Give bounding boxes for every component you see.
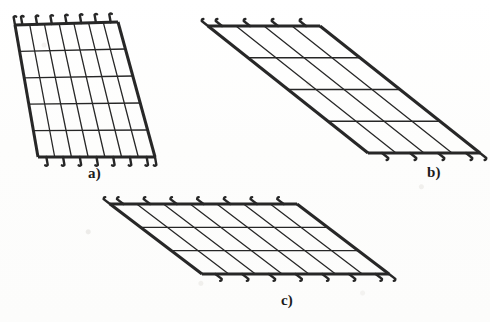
mesh-hook-bottom [145, 157, 148, 166]
mesh-hook-top [50, 15, 53, 24]
mesh-hook-top [36, 16, 39, 25]
mesh-wire-vertical [89, 23, 122, 157]
mesh-wire-vertical [163, 204, 255, 274]
mesh-hook-bottom [45, 157, 48, 166]
mesh-wire-vertical [190, 204, 282, 274]
figure-label-a: a) [88, 166, 101, 181]
mesh-hook-bottom [62, 157, 65, 166]
mesh-edge-left [110, 204, 202, 274]
mesh-edge-right [118, 22, 155, 157]
mesh-hook-bottom-corner [154, 157, 157, 166]
mesh-wire-vertical [137, 204, 229, 274]
mesh-wire-horizontal [24, 76, 133, 78]
mesh-hook-bottom-corner [389, 274, 395, 281]
mesh-wire-vertical [44, 24, 71, 157]
figure-a-mesh-panel [14, 13, 157, 165]
mesh-wire-horizontal [33, 130, 147, 131]
mesh-edge-left [15, 25, 38, 157]
figure-sheet: a) b) c) [0, 0, 490, 322]
mesh-wire-vertical [270, 204, 362, 274]
mesh-panels-drawing [0, 0, 490, 322]
figure-b-mesh-panel [202, 19, 487, 160]
mesh-hook-top [21, 16, 24, 25]
mesh-hook-bottom-corner [480, 153, 486, 160]
mesh-hook-top [95, 14, 98, 23]
mesh-hook-top-corner [202, 19, 208, 26]
mesh-hook-top [109, 13, 112, 22]
mesh-hook-top-corner [14, 16, 17, 25]
figure-label-c: c) [281, 293, 293, 308]
mesh-hook-bottom [112, 157, 115, 166]
mesh-wire-vertical [217, 204, 309, 274]
mesh-hook-bottom [79, 157, 82, 166]
mesh-hook-top [80, 14, 83, 23]
mesh-wire-vertical [103, 22, 138, 157]
mesh-wire-vertical [59, 24, 88, 157]
mesh-wire-vertical [244, 204, 336, 274]
mesh-hook-top-corner [104, 197, 110, 204]
mesh-edge-right [297, 204, 389, 274]
mesh-hook-top [65, 15, 68, 24]
mesh-hook-bottom [129, 157, 132, 166]
figure-c-mesh-panel [104, 197, 396, 281]
figure-label-b: b) [427, 165, 441, 180]
mesh-wire-horizontal [29, 103, 140, 104]
mesh-wire-horizontal [20, 49, 126, 51]
mesh-wire-vertical [74, 23, 105, 157]
